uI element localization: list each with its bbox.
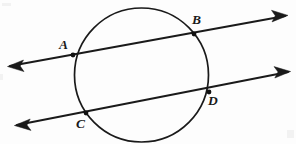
- point-label-c: C: [76, 117, 85, 131]
- vertex-dot-b: [192, 32, 197, 37]
- point-label-a: A: [59, 38, 68, 52]
- circle: [75, 8, 209, 142]
- arrow-right-icon: [272, 10, 289, 22]
- point-label-d: D: [208, 94, 218, 108]
- secant-line-cd: [14, 67, 290, 131]
- secant-ab-segment: [10, 16, 285, 66]
- arrow-left-icon: [8, 60, 25, 72]
- arrow-right-icon: [274, 67, 291, 78]
- secant-cd-segment: [17, 72, 288, 125]
- arrow-left-icon: [14, 119, 31, 130]
- point-label-b: B: [192, 13, 201, 27]
- figure-canvas: [0, 0, 296, 144]
- vertex-dot-a: [71, 53, 76, 58]
- geometry-figure: A B C D: [0, 0, 296, 144]
- secant-line-ab: [8, 10, 289, 71]
- vertex-dot-c: [84, 111, 89, 116]
